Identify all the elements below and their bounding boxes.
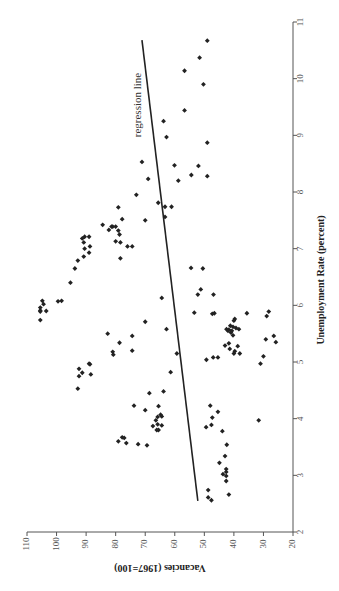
tick-label: 3 bbox=[295, 473, 305, 478]
data-point bbox=[68, 280, 73, 285]
data-point bbox=[161, 389, 166, 394]
data-point bbox=[130, 334, 135, 339]
data-point bbox=[145, 443, 150, 448]
data-point bbox=[117, 340, 122, 345]
data-point bbox=[217, 460, 222, 465]
data-point bbox=[258, 361, 263, 366]
data-point bbox=[224, 479, 229, 484]
data-point bbox=[100, 222, 105, 227]
data-point bbox=[263, 337, 268, 342]
data-point bbox=[164, 135, 169, 140]
data-point bbox=[271, 334, 276, 339]
data-point bbox=[204, 357, 209, 362]
data-point bbox=[216, 409, 221, 414]
data-point bbox=[140, 160, 145, 165]
data-point bbox=[44, 309, 49, 314]
data-point bbox=[223, 454, 228, 459]
data-point bbox=[205, 174, 210, 179]
data-point bbox=[146, 177, 151, 182]
scatter-chart: 234567891011 2030405060708090100110 regr… bbox=[0, 0, 339, 591]
data-point bbox=[105, 331, 110, 336]
data-point bbox=[273, 340, 278, 345]
data-point bbox=[87, 234, 92, 239]
data-point bbox=[266, 309, 271, 314]
data-point bbox=[216, 355, 221, 360]
data-point bbox=[116, 439, 121, 444]
data-point bbox=[205, 38, 210, 43]
data-point bbox=[120, 217, 125, 222]
data-point bbox=[226, 492, 231, 497]
tick-label: 4 bbox=[295, 416, 305, 421]
data-point bbox=[261, 354, 266, 359]
data-point bbox=[209, 498, 214, 503]
data-point bbox=[88, 244, 93, 249]
tick-label: 110 bbox=[21, 537, 31, 551]
data-point bbox=[38, 318, 43, 323]
vacancies-ticks: 2030405060708090100110 bbox=[21, 532, 297, 551]
data-point bbox=[161, 119, 166, 124]
data-point bbox=[206, 495, 211, 500]
tick-label: 60 bbox=[169, 539, 179, 549]
data-point bbox=[132, 403, 137, 408]
data-point bbox=[208, 403, 213, 408]
data-point bbox=[168, 370, 173, 375]
data-point bbox=[136, 442, 141, 447]
data-point bbox=[116, 205, 121, 210]
data-point bbox=[124, 441, 129, 446]
data-point bbox=[196, 164, 201, 169]
x-axis-title: Unemployment Rate (percent) bbox=[315, 215, 327, 344]
regression-line-label: regression line bbox=[131, 73, 143, 138]
data-point bbox=[143, 218, 148, 223]
data-point bbox=[87, 250, 92, 255]
data-point bbox=[192, 310, 197, 315]
data-point bbox=[72, 266, 77, 271]
data-point bbox=[75, 258, 80, 263]
data-points bbox=[38, 38, 278, 502]
tick-label: 20 bbox=[287, 539, 297, 549]
data-point bbox=[88, 372, 93, 377]
data-point bbox=[164, 327, 169, 332]
data-point bbox=[81, 240, 86, 245]
data-point bbox=[198, 287, 203, 292]
data-point bbox=[143, 319, 148, 324]
data-point bbox=[81, 254, 86, 259]
data-point bbox=[75, 386, 80, 391]
data-point bbox=[237, 351, 242, 356]
data-point bbox=[195, 292, 200, 297]
data-point bbox=[130, 244, 135, 249]
data-point bbox=[223, 343, 228, 348]
regression-line bbox=[142, 40, 198, 501]
data-point bbox=[116, 228, 121, 233]
data-point bbox=[227, 347, 232, 352]
data-point bbox=[256, 418, 261, 423]
data-point bbox=[176, 178, 181, 183]
unemployment-ticks: 234567891011 bbox=[293, 18, 305, 535]
tick-label: 10 bbox=[295, 74, 305, 84]
data-point bbox=[235, 344, 240, 349]
data-point bbox=[206, 488, 211, 493]
data-point bbox=[163, 204, 168, 209]
data-point bbox=[77, 374, 82, 379]
tick-label: 11 bbox=[295, 18, 305, 27]
data-point bbox=[224, 442, 229, 447]
data-point bbox=[147, 391, 152, 396]
tick-label: 6 bbox=[295, 303, 305, 308]
data-point bbox=[226, 341, 231, 346]
data-point bbox=[197, 55, 202, 60]
data-point bbox=[182, 108, 187, 113]
y-axis-title: Vacancies (1967=100) bbox=[114, 562, 206, 574]
data-point bbox=[172, 163, 177, 168]
axes: 234567891011 2030405060708090100110 bbox=[21, 18, 305, 551]
data-point bbox=[80, 370, 85, 375]
data-point bbox=[77, 366, 82, 371]
data-point bbox=[204, 425, 209, 430]
data-point bbox=[82, 246, 87, 251]
data-point bbox=[189, 173, 194, 178]
data-point bbox=[201, 82, 206, 87]
data-point bbox=[244, 311, 249, 316]
data-point bbox=[59, 298, 64, 303]
tick-label: 7 bbox=[295, 246, 305, 251]
data-point bbox=[118, 240, 123, 245]
tick-label: 30 bbox=[258, 539, 268, 549]
data-point bbox=[106, 228, 111, 233]
